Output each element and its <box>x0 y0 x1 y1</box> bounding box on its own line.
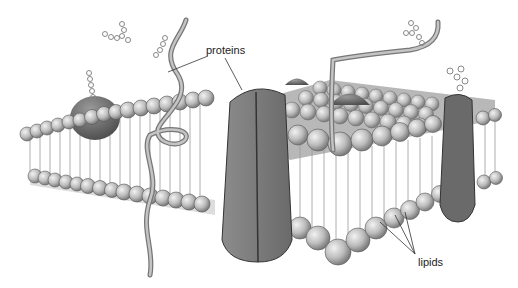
carbohydrate-chain-right <box>447 66 468 91</box>
label-proteins: proteins <box>206 44 245 56</box>
transmembrane-protein-right <box>440 94 475 222</box>
peripheral-protein-small <box>285 79 309 86</box>
membrane-diagram: proteins lipids <box>0 0 518 288</box>
lipids-leader-2 <box>395 215 415 254</box>
membrane-illustration <box>0 0 518 288</box>
lower-leaflet-heads-left <box>28 169 210 212</box>
proteins-leader-2 <box>225 58 242 90</box>
carbohydrate-chain-top-right <box>404 21 425 46</box>
carbohydrate-chain-strand <box>103 22 168 58</box>
channel-protein <box>222 89 292 262</box>
label-lipids: lipids <box>418 256 443 268</box>
carbohydrate-chain-left <box>87 71 96 100</box>
